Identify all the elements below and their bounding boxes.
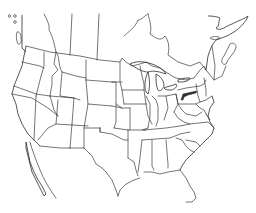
baja-california — [26, 142, 46, 196]
map-container — [0, 0, 256, 213]
southeast-borders — [128, 122, 214, 202]
islands-northwest — [8, 15, 21, 44]
northeast-borders — [174, 78, 214, 128]
canada-borders — [22, 14, 248, 80]
south-central-borders — [84, 82, 140, 196]
midwest-borders — [112, 62, 178, 130]
north-america-outline-map — [0, 0, 256, 213]
western-state-borders — [12, 52, 112, 148]
highlighted-region — [181, 91, 197, 100]
